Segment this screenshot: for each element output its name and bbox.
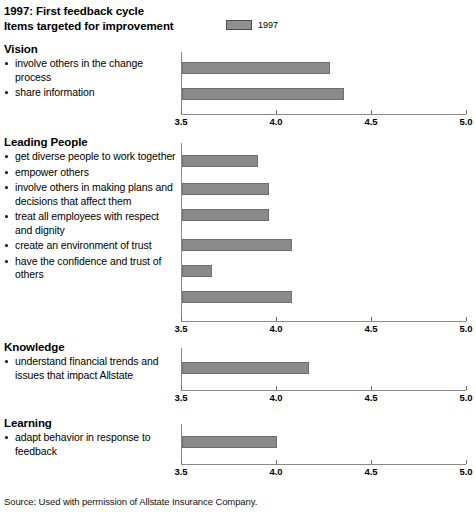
list-item: involve others in making plans and decis… — [4, 181, 176, 208]
section-labels: Learningadapt behavior in response to fe… — [4, 416, 176, 460]
chart-body: Visioninvolve others in the change proce… — [0, 42, 476, 490]
list-item: get diverse people to work together — [4, 150, 176, 164]
bar — [182, 291, 292, 303]
x-axis-tick — [466, 386, 467, 390]
x-axis-tick — [466, 460, 467, 464]
plot-area: 3.54.04.55.0 — [181, 340, 466, 410]
x-axis-tick-label: 5.0 — [459, 117, 472, 127]
x-axis-tick-label: 5.0 — [459, 324, 472, 334]
x-axis-tick — [276, 460, 277, 464]
x-axis-line — [181, 114, 466, 115]
list-item-label: involve others in making plans and decis… — [15, 181, 173, 207]
x-axis-tick — [181, 110, 182, 114]
x-axis-tick-label: 3.5 — [174, 393, 187, 403]
plot-area: 3.54.04.55.0 — [181, 135, 466, 341]
chart-header: 1997: First feedback cycle Items targete… — [4, 4, 472, 40]
bar — [182, 436, 277, 448]
section-plot: 3.54.04.55.0 — [181, 135, 471, 341]
x-axis-tick — [276, 317, 277, 321]
x-axis-tick — [466, 110, 467, 114]
x-axis-tick-label: 4.0 — [269, 393, 282, 403]
title-line-2: Items targeted for improvement — [4, 19, 234, 34]
x-axis-line — [181, 464, 466, 465]
list-item-label: have the confidence and trust of others — [15, 255, 161, 281]
x-axis-tick — [371, 317, 372, 321]
section-heading: Learning — [4, 416, 176, 430]
bar — [182, 183, 269, 195]
legend-label-1997: 1997 — [258, 20, 278, 30]
x-axis-tick-label: 3.5 — [174, 117, 187, 127]
list-item-label: create an environment of trust — [15, 239, 152, 251]
bullet-icon — [5, 244, 8, 247]
list-item: have the confidence and trust of others — [4, 255, 176, 282]
bullet-icon — [5, 171, 8, 174]
plot-area: 3.54.04.55.0 — [181, 416, 466, 484]
section-plot: 3.54.04.55.0 — [181, 42, 471, 134]
x-axis-tick-label: 4.5 — [364, 467, 377, 477]
bar — [182, 88, 344, 100]
list-item: treat all employees with respect and dig… — [4, 210, 176, 237]
list-item: create an environment of trust — [4, 239, 176, 253]
list-item-label: empower others — [15, 166, 89, 178]
bullet-icon — [5, 360, 8, 363]
bar — [182, 62, 330, 74]
list-item: understand financial trends and issues t… — [4, 355, 176, 382]
bullet-icon — [5, 260, 8, 263]
x-axis-tick-label: 4.0 — [269, 467, 282, 477]
bar — [182, 265, 212, 277]
bar — [182, 209, 269, 221]
section-labels: Leading Peopleget diverse people to work… — [4, 135, 176, 284]
x-axis-tick — [466, 317, 467, 321]
section-plot: 3.54.04.55.0 — [181, 340, 471, 410]
list-item-label: treat all employees with respect and dig… — [15, 210, 159, 236]
x-axis-tick-label: 4.5 — [364, 117, 377, 127]
x-axis-line — [181, 321, 466, 322]
bullet-icon — [5, 436, 8, 439]
source-note: Source: Used with permission of Allstate… — [4, 496, 257, 508]
title-line-1: 1997: First feedback cycle — [4, 4, 234, 19]
x-axis-tick-label: 5.0 — [459, 467, 472, 477]
x-axis-line — [181, 390, 466, 391]
section-heading: Vision — [4, 42, 176, 56]
section-heading: Leading People — [4, 135, 176, 149]
list-item-label: understand financial trends and issues t… — [15, 355, 158, 381]
list-item-label: involve others in the change process — [15, 57, 143, 83]
chart-legend: 1997 — [226, 20, 278, 30]
x-axis-tick-label: 4.5 — [364, 393, 377, 403]
bullet-icon — [5, 62, 8, 65]
list-item-label: adapt behavior in response to feedback — [15, 431, 150, 457]
x-axis-tick-label: 3.5 — [174, 324, 187, 334]
list-item: share information — [4, 86, 176, 100]
x-axis-tick — [371, 386, 372, 390]
bar — [182, 362, 309, 374]
x-axis-tick-label: 3.5 — [174, 467, 187, 477]
x-axis-tick-label: 4.0 — [269, 324, 282, 334]
bar — [182, 155, 258, 167]
page-title: 1997: First feedback cycle Items targete… — [4, 4, 234, 34]
list-item: adapt behavior in response to feedback — [4, 431, 176, 458]
x-axis-tick — [181, 460, 182, 464]
bar — [182, 239, 292, 251]
list-item-label: share information — [15, 86, 94, 98]
bullet-icon — [5, 155, 8, 158]
bullet-icon — [5, 91, 8, 94]
list-item: empower others — [4, 166, 176, 180]
list-item: involve others in the change process — [4, 57, 176, 84]
bullet-icon — [5, 215, 8, 218]
section-labels: Knowledgeunderstand financial trends and… — [4, 340, 176, 384]
x-axis-tick-label: 4.5 — [364, 324, 377, 334]
bullet-icon — [5, 186, 8, 189]
section-plot: 3.54.04.55.0 — [181, 416, 471, 484]
x-axis-tick — [276, 386, 277, 390]
x-axis-tick-label: 5.0 — [459, 393, 472, 403]
legend-swatch-1997 — [226, 20, 252, 30]
x-axis-tick — [276, 110, 277, 114]
x-axis-tick — [181, 317, 182, 321]
plot-area: 3.54.04.55.0 — [181, 42, 466, 134]
x-axis-tick-label: 4.0 — [269, 117, 282, 127]
x-axis-tick — [181, 386, 182, 390]
list-item-label: get diverse people to work together — [15, 150, 176, 162]
section-heading: Knowledge — [4, 340, 176, 354]
x-axis-tick — [371, 460, 372, 464]
section-labels: Visioninvolve others in the change proce… — [4, 42, 176, 102]
